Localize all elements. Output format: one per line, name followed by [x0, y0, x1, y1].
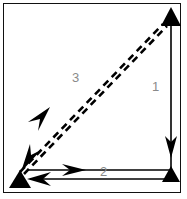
leg-3-line-lower: [20, 24, 163, 172]
diagram-canvas: [0, 0, 187, 199]
bottom-right-vertex-triangle: [162, 166, 180, 182]
figure-root: 1 2 3: [0, 0, 187, 199]
leg-2-label: 2: [100, 165, 107, 178]
leg-1-vertical-arrow: [165, 26, 177, 172]
leg-1-label: 1: [152, 80, 159, 93]
leg-2-horizontal-arrows: [27, 164, 170, 186]
leg-3-arrowhead-upleft: [28, 107, 50, 131]
leg-3-line-upper: [24, 26, 167, 174]
leg-3-arrowhead-downleft: [21, 144, 41, 172]
leg-3-diagonal-dashed-arrows: [20, 24, 167, 174]
leg-3-label: 3: [72, 71, 79, 84]
top-right-vertex-triangle: [161, 7, 181, 26]
